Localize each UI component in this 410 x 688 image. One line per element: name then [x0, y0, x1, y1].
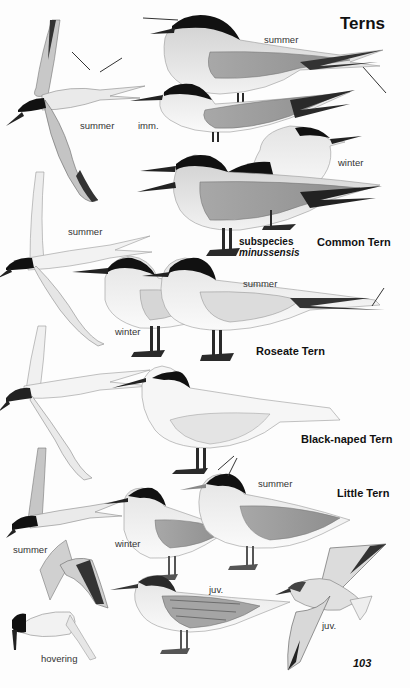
species-name-little-tern: Little Tern — [337, 487, 389, 499]
label-roseate-winter: winter — [115, 326, 140, 337]
label-common-winter: winter — [338, 157, 363, 168]
label-little-summer-flight: summer — [13, 544, 47, 555]
little-tern-summer-flight — [6, 448, 125, 538]
species-name-roseate-tern: Roseate Tern — [256, 345, 325, 357]
little-tern-juv-flight — [275, 544, 386, 670]
label-common-summer-flight: summer — [80, 120, 114, 131]
species-name-black-naped-tern: Black-naped Tern — [301, 433, 393, 445]
label-roseate-summer: summer — [243, 278, 277, 289]
label-common-imm: imm. — [138, 120, 159, 131]
page-title: Terns — [340, 14, 385, 34]
little-tern-summer — [180, 458, 350, 570]
label-little-winter: winter — [115, 538, 140, 549]
label-little-juv-perched: juv. — [209, 584, 223, 595]
subspecies-name: minussensis — [239, 247, 300, 258]
subspecies-label: subspecies — [239, 236, 293, 247]
tern-illustrations — [0, 0, 410, 688]
species-name-common-tern: Common Tern — [317, 236, 391, 248]
field-guide-page: Terns summer summer imm. winter subspeci… — [0, 0, 410, 688]
label-little-juv-flight: juv. — [322, 620, 336, 631]
label-roseate-summer-flight: summer — [68, 226, 102, 237]
label-little-hovering: hovering — [41, 653, 77, 664]
little-tern-hovering — [12, 540, 108, 660]
label-common-summer-perched: summer — [264, 34, 298, 45]
label-subspecies: subspecies minussensis — [239, 236, 300, 258]
little-tern-juv-perched — [110, 576, 290, 654]
page-number: 103 — [353, 657, 371, 669]
label-little-summer: summer — [258, 478, 292, 489]
common-tern-summer-flight — [6, 20, 145, 202]
black-naped-tern-perched — [112, 366, 340, 474]
black-naped-tern-flight — [0, 326, 150, 480]
